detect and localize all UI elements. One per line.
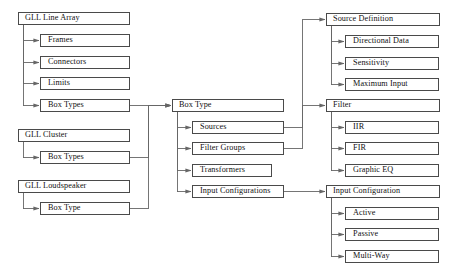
node-limits[interactable]: Limits <box>40 77 130 90</box>
node-source_definition[interactable]: Source Definition <box>326 13 440 26</box>
node-label-fir: FIR <box>346 144 366 152</box>
node-sensitivity[interactable]: Sensitivity <box>345 57 439 70</box>
node-label-box_type_loudspeaker: Box Type <box>41 204 81 212</box>
node-label-box_types_cluster: Box Types <box>41 153 84 161</box>
node-input_configurations[interactable]: Input Configurations <box>192 185 284 198</box>
node-label-filter: Filter <box>327 101 351 109</box>
node-label-passive: Passive <box>346 230 378 238</box>
node-label-sources: Sources <box>193 123 227 131</box>
node-label-sensitivity: Sensitivity <box>346 59 389 67</box>
node-box_type[interactable]: Box Type <box>172 99 284 112</box>
node-box_types_line_array[interactable]: Box Types <box>40 99 130 112</box>
node-label-input_configurations: Input Configurations <box>193 187 270 195</box>
node-label-frames: Frames <box>41 36 73 44</box>
node-frames[interactable]: Frames <box>40 34 130 47</box>
node-label-box_types_line_array: Box Types <box>41 101 84 109</box>
node-label-filter_groups: Filter Groups <box>193 144 245 152</box>
node-label-source_definition: Source Definition <box>327 15 393 23</box>
node-gll_loudspeaker[interactable]: GLL Loudspeaker <box>18 180 130 193</box>
node-box_type_loudspeaker[interactable]: Box Type <box>40 202 130 215</box>
node-layer: GLL Line ArrayFramesConnectorsLimitsBox … <box>0 0 454 269</box>
node-connectors[interactable]: Connectors <box>40 56 130 69</box>
node-label-active: Active <box>346 209 375 217</box>
node-gll_cluster[interactable]: GLL Cluster <box>18 129 130 142</box>
node-filter[interactable]: Filter <box>326 99 440 112</box>
node-label-directional_data: Directional Data <box>346 37 409 45</box>
node-label-box_type: Box Type <box>173 101 212 109</box>
node-multi_way[interactable]: Multi-Way <box>345 250 439 263</box>
node-graphic_eq[interactable]: Graphic EQ <box>345 164 439 177</box>
node-label-transformers: Transformers <box>193 166 245 174</box>
node-label-iir: IIR <box>346 123 364 131</box>
node-filter_groups[interactable]: Filter Groups <box>192 142 284 155</box>
node-label-input_configuration: Input Configuration <box>327 187 400 195</box>
node-transformers[interactable]: Transformers <box>192 164 272 177</box>
node-gll_line_array[interactable]: GLL Line Array <box>18 12 130 25</box>
node-fir[interactable]: FIR <box>345 142 439 155</box>
node-passive[interactable]: Passive <box>345 228 439 241</box>
node-input_configuration[interactable]: Input Configuration <box>326 185 440 198</box>
diagram-canvas: GLL Line ArrayFramesConnectorsLimitsBox … <box>0 0 454 269</box>
node-label-connectors: Connectors <box>41 58 86 66</box>
node-label-gll_line_array: GLL Line Array <box>19 14 80 22</box>
node-label-gll_cluster: GLL Cluster <box>19 131 67 139</box>
node-label-maximum_input: Maximum Input <box>346 80 408 88</box>
node-active[interactable]: Active <box>345 207 439 220</box>
node-label-graphic_eq: Graphic EQ <box>346 166 393 174</box>
node-box_types_cluster[interactable]: Box Types <box>40 151 130 164</box>
node-directional_data[interactable]: Directional Data <box>345 35 439 48</box>
node-label-limits: Limits <box>41 79 70 87</box>
node-sources[interactable]: Sources <box>192 121 284 134</box>
node-maximum_input[interactable]: Maximum Input <box>345 78 439 91</box>
node-label-gll_loudspeaker: GLL Loudspeaker <box>19 182 86 190</box>
node-label-multi_way: Multi-Way <box>346 252 390 260</box>
node-iir[interactable]: IIR <box>345 121 439 134</box>
